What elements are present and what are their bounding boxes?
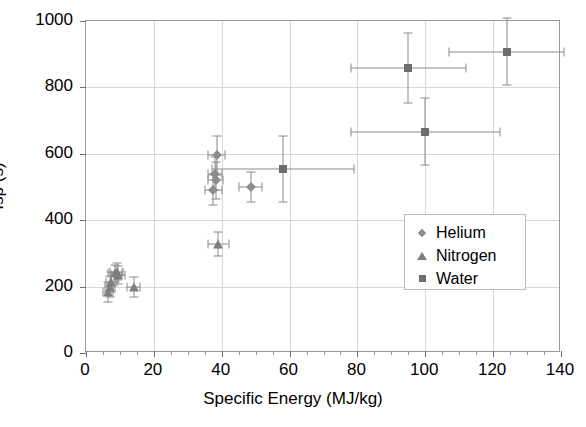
error-cap-right: [223, 176, 224, 185]
error-cap-left: [449, 47, 450, 56]
gridline-vertical: [357, 21, 358, 351]
x-minor-tick: [374, 351, 375, 355]
y-axis-title: Isp (s): [0, 126, 8, 246]
x-minor-tick: [459, 351, 460, 355]
x-minor-tick: [527, 351, 528, 355]
legend-item-helium[interactable]: Helium: [415, 221, 525, 244]
error-cap-top: [278, 135, 287, 136]
error-cap-bottom: [246, 201, 255, 202]
error-cap-bottom: [502, 84, 511, 85]
error-cap-top: [209, 175, 218, 176]
data-point-nitrogen: [213, 240, 223, 249]
x-minor-tick: [239, 351, 240, 355]
error-cap-right: [564, 47, 565, 56]
x-tick-label: 120: [478, 360, 506, 380]
x-minor-tick: [256, 351, 257, 355]
legend-label-helium: Helium: [436, 224, 486, 242]
error-cap-right: [125, 270, 126, 279]
x-tick-label: 140: [546, 360, 574, 380]
square-icon: [415, 272, 429, 286]
error-cap-left: [208, 240, 209, 249]
x-minor-tick: [307, 351, 308, 355]
x-minor-tick: [510, 351, 511, 355]
x-tick-mark: [561, 351, 562, 357]
chart-legend: Helium Nitrogen Water: [404, 214, 526, 290]
y-tick-label: 1000: [35, 10, 73, 30]
error-cap-bottom: [112, 279, 121, 280]
diamond-icon: [415, 226, 429, 240]
error-cap-top: [421, 98, 430, 99]
x-minor-tick: [120, 351, 121, 355]
error-cap-bottom: [104, 301, 113, 302]
error-cap-top: [210, 157, 219, 158]
error-cap-bottom: [105, 297, 114, 298]
legend-label-water: Water: [436, 270, 478, 288]
error-cap-top: [114, 265, 123, 266]
gridline-vertical: [493, 21, 494, 351]
x-tick-mark: [493, 351, 494, 357]
data-point-water: [279, 165, 287, 173]
plot-area: [85, 20, 560, 352]
error-cap-top: [112, 263, 121, 264]
error-cap-left: [208, 176, 209, 185]
gridline-vertical: [290, 21, 291, 351]
error-cap-top: [129, 276, 138, 277]
error-cap-top: [502, 18, 511, 19]
data-point-water: [404, 64, 412, 72]
triangle-icon: [415, 249, 429, 263]
error-cap-bottom: [129, 296, 138, 297]
x-minor-tick: [442, 351, 443, 355]
x-tick-label: 100: [410, 360, 438, 380]
error-cap-left: [126, 282, 127, 291]
gridline-vertical: [425, 21, 426, 351]
y-tick-mark: [80, 21, 86, 22]
y-tick-label: 800: [45, 76, 73, 96]
y-tick-mark: [80, 287, 86, 288]
x-tick-mark: [86, 351, 87, 357]
x-minor-tick: [273, 351, 274, 355]
error-cap-right: [499, 127, 500, 136]
y-tick-label: 400: [45, 209, 73, 229]
error-cap-top: [214, 232, 223, 233]
error-cap-bottom: [421, 164, 430, 165]
data-point-helium: [246, 182, 256, 192]
x-minor-tick: [391, 351, 392, 355]
y-tick-mark: [80, 220, 86, 221]
legend-item-nitrogen[interactable]: Nitrogen: [415, 244, 525, 267]
error-cap-right: [225, 151, 226, 160]
y-tick-label: 0: [64, 342, 73, 362]
error-cap-right: [221, 186, 222, 195]
error-cap-bottom: [278, 201, 287, 202]
error-cap-top: [211, 162, 220, 163]
error-cap-left: [350, 127, 351, 136]
data-point-nitrogen: [113, 270, 123, 279]
legend-item-water[interactable]: Water: [415, 267, 525, 290]
data-point-helium: [208, 185, 218, 195]
error-cap-bottom: [214, 255, 223, 256]
x-minor-tick: [324, 351, 325, 355]
y-tick-mark: [80, 154, 86, 155]
error-cap-bottom: [404, 103, 413, 104]
data-point-nitrogen: [129, 282, 139, 291]
x-minor-tick: [188, 351, 189, 355]
error-cap-top: [246, 172, 255, 173]
y-tick-label: 200: [45, 276, 73, 296]
data-point-helium: [212, 151, 222, 161]
legend-label-nitrogen: Nitrogen: [436, 247, 496, 265]
gridline-horizontal: [86, 154, 559, 155]
error-cap-top: [404, 33, 413, 34]
gridline-horizontal: [86, 87, 559, 88]
x-tick-label: 40: [211, 360, 230, 380]
x-minor-tick: [476, 351, 477, 355]
error-cap-left: [211, 164, 212, 173]
x-tick-label: 60: [279, 360, 298, 380]
x-minor-tick: [340, 351, 341, 355]
data-point-water: [421, 128, 429, 136]
x-tick-mark: [222, 351, 223, 357]
error-cap-bottom: [114, 284, 123, 285]
x-tick-label: 80: [347, 360, 366, 380]
error-cap-right: [140, 282, 141, 291]
x-tick-label: 20: [143, 360, 162, 380]
x-tick-mark: [154, 351, 155, 357]
x-minor-tick: [171, 351, 172, 355]
